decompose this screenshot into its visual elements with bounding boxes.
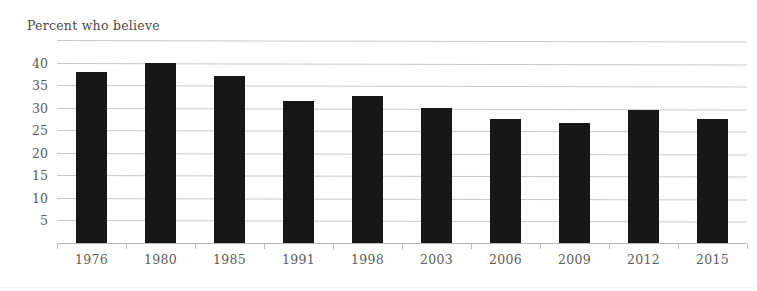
x-axis-tick (195, 244, 196, 249)
y-axis-tick-label: 30 (32, 100, 48, 115)
bar (421, 108, 452, 243)
x-axis-tick-label: 2015 (696, 252, 729, 267)
y-axis-tick-label: 25 (32, 123, 48, 138)
bar (214, 76, 245, 243)
x-axis-tick-label: 1998 (351, 252, 384, 267)
x-axis-tick-label: 2006 (489, 252, 522, 267)
x-axis-tick (471, 244, 472, 249)
x-axis-tick (747, 244, 748, 249)
bar-series (57, 40, 747, 243)
y-axis-labels: 510152025303540 (0, 40, 57, 243)
bar (76, 72, 107, 243)
x-axis-tick-label: 1980 (144, 252, 177, 267)
scan-edge-line (0, 287, 757, 288)
y-axis-tick-label: 20 (32, 145, 48, 160)
x-axis-tick-label: 1985 (213, 252, 246, 267)
x-axis-labels: 1976198019851991199820032006200920122015 (57, 252, 747, 274)
x-axis-tick (402, 244, 403, 249)
x-axis-tick (126, 244, 127, 249)
x-axis-tick (57, 244, 58, 249)
x-axis-tick-label: 2003 (420, 252, 453, 267)
bar (283, 101, 314, 243)
y-axis-tick-label: 35 (32, 78, 48, 93)
plot-area (57, 40, 747, 243)
x-axis-tick (264, 244, 265, 249)
y-axis-tick-label: 15 (32, 168, 48, 183)
bar (145, 63, 176, 243)
x-axis-tick-label: 2012 (627, 252, 660, 267)
x-axis-tick (540, 244, 541, 249)
bar-chart: Percent who believe 510152025303540 1976… (0, 0, 757, 291)
x-axis-tick (678, 244, 679, 249)
chart-title: Percent who believe (27, 18, 160, 33)
x-axis-tick-label: 2009 (558, 252, 591, 267)
x-axis-tick (609, 244, 610, 249)
bar (628, 110, 659, 243)
y-axis-tick-label: 40 (32, 55, 48, 70)
x-axis-tick-label: 1976 (75, 252, 108, 267)
bar (697, 119, 728, 243)
y-axis-tick-label: 5 (40, 213, 48, 228)
x-axis-tick (333, 244, 334, 249)
bar (490, 119, 521, 243)
bar (559, 123, 590, 243)
y-axis-tick-label: 10 (32, 190, 48, 205)
x-axis-tick-label: 1991 (282, 252, 315, 267)
bar (352, 96, 383, 243)
